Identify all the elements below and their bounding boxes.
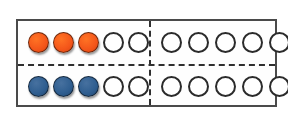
ten-frame-cell[interactable] (213, 75, 237, 99)
blue-filled-counter[interactable] (53, 76, 74, 97)
blue-filled-counter[interactable] (28, 76, 49, 97)
ten-frame-row-bottom (18, 65, 275, 108)
row-top-right-group (149, 31, 275, 55)
empty-counter[interactable] (103, 32, 124, 53)
ten-frame-cell[interactable] (101, 31, 125, 55)
orange-filled-counter[interactable] (78, 32, 99, 53)
blue-filled-counter[interactable] (78, 76, 99, 97)
empty-counter[interactable] (128, 32, 149, 53)
empty-counter[interactable] (215, 76, 236, 97)
ten-frame-cell[interactable] (213, 31, 237, 55)
empty-counter[interactable] (269, 32, 289, 53)
ten-frame-cell[interactable] (186, 75, 210, 99)
ten-frame-cell[interactable] (51, 75, 75, 99)
ten-frame-cell[interactable] (267, 31, 288, 55)
horizontal-dashed-divider (18, 64, 275, 66)
double-ten-frame (16, 19, 277, 107)
ten-frame-cell[interactable] (126, 75, 150, 99)
empty-counter[interactable] (188, 32, 209, 53)
empty-counter[interactable] (269, 76, 289, 97)
ten-frame-cell[interactable] (76, 31, 100, 55)
ten-frame-cell[interactable] (76, 75, 100, 99)
empty-counter[interactable] (188, 76, 209, 97)
row-top-left-group (18, 31, 149, 55)
ten-frame-cell[interactable] (51, 31, 75, 55)
vertical-dashed-divider (149, 21, 151, 105)
ten-frame-cell[interactable] (26, 31, 50, 55)
figure-canvas (0, 0, 288, 123)
empty-counter[interactable] (128, 76, 149, 97)
empty-counter[interactable] (161, 76, 182, 97)
empty-counter[interactable] (103, 76, 124, 97)
empty-counter[interactable] (242, 76, 263, 97)
ten-frame-cell[interactable] (186, 31, 210, 55)
ten-frame-cell[interactable] (240, 75, 264, 99)
orange-filled-counter[interactable] (28, 32, 49, 53)
ten-frame-cell[interactable] (267, 75, 288, 99)
ten-frame-row-top (18, 21, 275, 64)
row-bottom-right-group (149, 75, 275, 99)
empty-counter[interactable] (215, 32, 236, 53)
row-bottom-left-group (18, 75, 149, 99)
empty-counter[interactable] (242, 32, 263, 53)
ten-frame-cell[interactable] (126, 31, 150, 55)
empty-counter[interactable] (161, 32, 182, 53)
ten-frame-cell[interactable] (101, 75, 125, 99)
ten-frame-cell[interactable] (240, 31, 264, 55)
ten-frame-cell[interactable] (26, 75, 50, 99)
ten-frame-cell[interactable] (159, 31, 183, 55)
ten-frame-cell[interactable] (159, 75, 183, 99)
orange-filled-counter[interactable] (53, 32, 74, 53)
